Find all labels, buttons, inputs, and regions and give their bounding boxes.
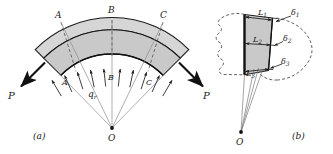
- force-label-left: P: [7, 90, 15, 101]
- force-arrow-right: [179, 63, 203, 87]
- deflection-leader-1: [276, 16, 291, 22]
- panel-a: A B C A B C qr P P O (a): [7, 5, 210, 143]
- torn-edge-dashed-left: [216, 13, 244, 74]
- deflection-label-d3: δ3: [281, 57, 290, 67]
- outer-label-B: B: [107, 5, 115, 15]
- load-arrow-6: [118, 69, 120, 86]
- inner-label-A: A: [61, 78, 68, 87]
- outer-label-C: C: [160, 10, 167, 20]
- panel-a-caption: (a): [33, 131, 46, 141]
- deflection-leader-2: [275, 42, 284, 46]
- inner-label-B: B: [107, 73, 114, 82]
- outer-label-A: A: [54, 10, 62, 20]
- load-arrow-5: [104, 69, 106, 86]
- inner-label-C: C: [146, 78, 152, 87]
- spoke-1: [44, 58, 112, 128]
- figure-root: A B C A B C qr P P O (a): [0, 0, 333, 154]
- length-label-L1: L1: [257, 8, 267, 18]
- force-arrow-left: [21, 63, 45, 87]
- force-label-right: P: [202, 90, 210, 101]
- technical-figure: A B C A B C qr P P O (a): [0, 0, 333, 154]
- deflection-label-d2: δ2: [283, 34, 292, 44]
- origin-label-a: O: [108, 133, 116, 143]
- deflection-label-d1: δ1: [291, 8, 300, 18]
- load-arrow-9: [152, 76, 159, 92]
- load-arrow-1: [52, 80, 61, 96]
- undeformed-outline-dashed-right: [277, 18, 313, 80]
- spoke-5: [112, 58, 180, 128]
- origin-point-b: [239, 130, 243, 134]
- origin-label-b: O: [236, 137, 244, 147]
- panel-b: L1 L2 L3 δ1 δ2 δ3 O (b): [216, 8, 312, 147]
- origin-point-a: [110, 126, 114, 130]
- load-arrow-3: [77, 72, 83, 89]
- load-arrow-10: [163, 80, 172, 96]
- load-label: qr: [88, 89, 98, 100]
- panel-b-caption: (b): [292, 131, 305, 141]
